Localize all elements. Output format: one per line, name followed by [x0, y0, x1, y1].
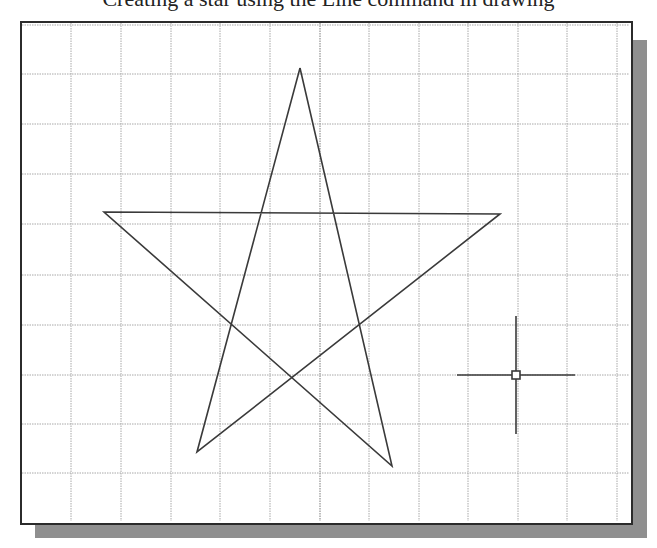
- crosshair-icon: [457, 316, 575, 434]
- pickbox-icon: [512, 371, 520, 379]
- star-shape[interactable]: [104, 68, 500, 466]
- grid: [22, 23, 629, 521]
- drawing-area[interactable]: [0, 0, 657, 548]
